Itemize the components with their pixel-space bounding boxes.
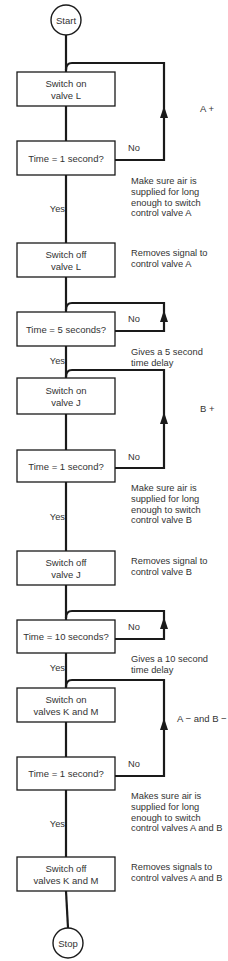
flowchart: StartStopA +B +A − and B −Switch onvalve… [0, 0, 228, 961]
box-label: valve J [51, 569, 81, 580]
annotation-text: Makes sure air is [131, 791, 202, 801]
annotation-text: Make sure air is [131, 483, 197, 493]
yes-label: Yes [50, 663, 66, 673]
annotation-text: enough to switch [131, 198, 201, 208]
box-label: Switch on [45, 385, 86, 396]
box-label: valve J [51, 397, 81, 408]
box-label: valve L [51, 90, 81, 101]
annotation-text: Removes signal to [131, 556, 207, 566]
box-label: Time = 10 seconds? [23, 631, 108, 642]
yes-label: Yes [50, 512, 66, 522]
annotation-text: supplied for long [131, 494, 199, 504]
no-label: No [128, 143, 140, 153]
box-label: valves K and M [34, 875, 99, 886]
no-label: No [128, 759, 140, 769]
annotation-text: supplied for long [131, 802, 199, 812]
annotation-text: Make sure air is [131, 176, 197, 186]
annotation-text: enough to switch [131, 505, 201, 515]
box-label: Time = 1 second? [28, 153, 103, 164]
phase-label: B + [200, 403, 215, 414]
annotation-text: time delay [131, 358, 174, 368]
arrow-up-icon [160, 106, 168, 118]
box-label: Switch off [45, 863, 86, 874]
annotation-text: control valve A [131, 208, 192, 218]
no-label: No [128, 314, 140, 324]
box-label: Switch off [45, 249, 86, 260]
yes-label: Yes [50, 356, 66, 366]
annotation-text: control valves A and B [131, 823, 222, 833]
box-label: Switch on [45, 694, 86, 705]
box-label: valve L [51, 261, 81, 272]
annotation-text: Removes signal to [131, 248, 207, 258]
box-label: Time = 1 second? [28, 461, 103, 472]
annotation-text: Removes signals to [131, 862, 212, 872]
annotation-text: control valve A [131, 259, 192, 269]
annotation-text: time delay [131, 665, 174, 675]
box-label: Switch off [45, 557, 86, 568]
arrow-up-icon [160, 617, 168, 629]
annotation-text: Gives a 10 second [131, 654, 208, 664]
annotation-text: supplied for long [131, 187, 199, 197]
yes-label: Yes [50, 204, 66, 214]
annotation-text: control valve B [131, 515, 192, 525]
annotation-text: control valves A and B [131, 873, 222, 883]
flow-line [66, 891, 68, 928]
annotation-text: Gives a 5 second [131, 347, 203, 357]
no-label: No [128, 452, 140, 462]
box-label: valves K and M [34, 706, 99, 717]
box-label: Switch on [45, 78, 86, 89]
arrow-up-icon [160, 412, 168, 424]
annotation-text: enough to switch [131, 813, 201, 823]
box-label: Time = 1 second? [28, 768, 103, 779]
phase-label: A + [200, 103, 214, 114]
box-label: Time = 5 seconds? [26, 324, 106, 335]
yes-label: Yes [50, 819, 66, 829]
phase-label: A − and B − [177, 713, 227, 724]
annotation-text: control valve B [131, 567, 192, 577]
arrow-up-icon [160, 310, 168, 322]
arrow-up-icon [160, 718, 168, 730]
stop-label: Stop [58, 938, 78, 949]
no-label: No [128, 622, 140, 632]
start-label: Start [56, 15, 76, 26]
